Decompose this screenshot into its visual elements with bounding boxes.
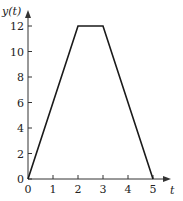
y-tick-label: 12 (10, 20, 24, 33)
series-line (28, 26, 153, 179)
y-ticks: 024681012 (10, 20, 32, 186)
y-tick-label: 2 (17, 148, 24, 161)
y-tick-label: 4 (17, 122, 24, 135)
x-tick-label: 4 (125, 183, 132, 196)
x-tick-label: 0 (25, 183, 32, 196)
y-tick-label: 0 (17, 173, 24, 186)
y-axis-arrow-icon (25, 10, 31, 18)
y-tick-label: 8 (17, 71, 24, 84)
chart: 024681012 012345 y(t) t (0, 0, 183, 201)
y-tick-label: 6 (17, 97, 24, 110)
x-tick-label: 5 (150, 183, 157, 196)
x-axis-label: t (170, 184, 175, 197)
y-axis-label: y(t) (1, 5, 21, 18)
x-tick-label: 3 (100, 183, 107, 196)
x-tick-label: 2 (75, 183, 82, 196)
x-tick-label: 1 (50, 183, 57, 196)
axes (25, 10, 171, 182)
x-ticks: 012345 (25, 175, 157, 196)
y-tick-label: 10 (10, 46, 24, 59)
x-axis-arrow-icon (163, 176, 171, 182)
